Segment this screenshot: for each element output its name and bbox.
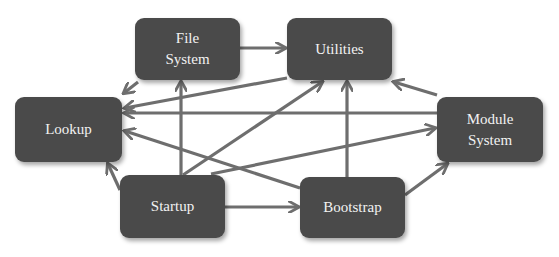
node-bootstrap: Bootstrap — [300, 177, 405, 238]
node-label: Bootstrap — [323, 197, 381, 218]
edge-startup-to-lookup — [108, 164, 120, 190]
node-label: Utilities — [315, 39, 363, 60]
edge-utilities-to-lookup — [125, 78, 287, 108]
edge-bootstrap-to-module-system — [405, 164, 447, 195]
edge-startup-to-utilities — [183, 82, 322, 175]
node-label: Startup — [151, 196, 194, 217]
node-label: File System — [165, 28, 209, 70]
node-label: Module System — [467, 109, 514, 151]
node-startup: Startup — [120, 175, 225, 238]
edge-file-system-to-lookup — [124, 82, 138, 93]
node-lookup: Lookup — [15, 97, 122, 162]
node-file-system: File System — [135, 18, 240, 80]
node-label: Lookup — [45, 119, 92, 140]
node-module-system: Module System — [437, 97, 543, 162]
node-utilities: Utilities — [287, 18, 392, 80]
edge-module-system-to-utilities — [394, 82, 437, 95]
